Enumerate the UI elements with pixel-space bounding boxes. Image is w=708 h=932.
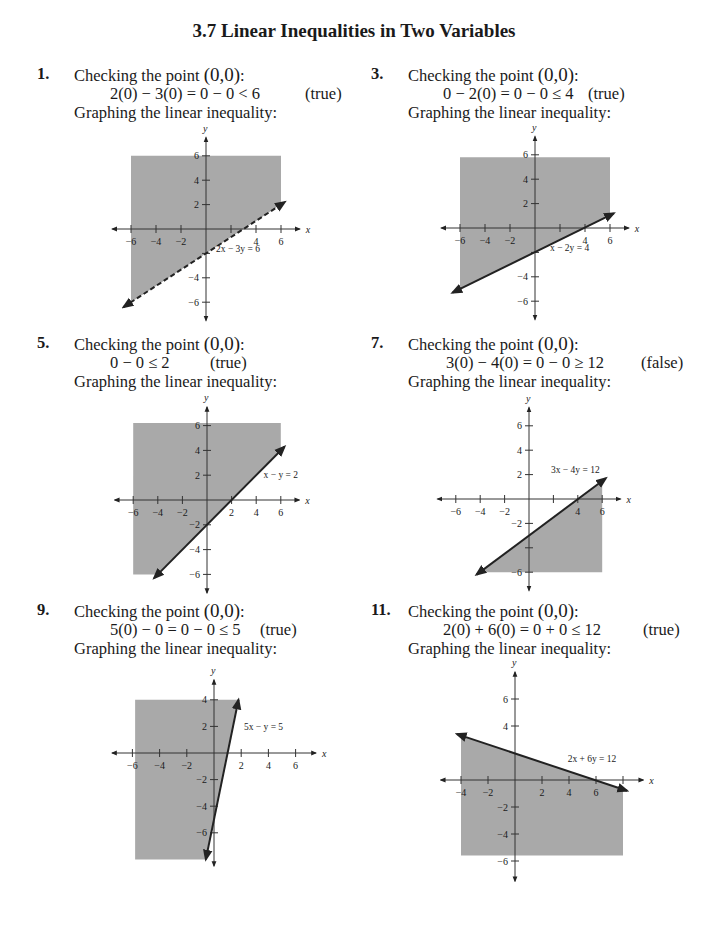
x-tick-label: −4 xyxy=(456,787,467,798)
x-tick-label: 4 xyxy=(567,787,572,798)
y-tick-label: 4 xyxy=(503,721,508,732)
y-tick-label: −6 xyxy=(497,856,508,867)
x-tick-label: −2 xyxy=(483,787,494,798)
line-equation-label: 2x + 6y = 12 xyxy=(568,754,617,764)
y-axis-label: y xyxy=(511,657,517,668)
y-tick-label: 6 xyxy=(503,694,508,705)
y-tick-label: −4 xyxy=(497,829,508,840)
x-tick-label: 6 xyxy=(594,787,599,798)
graph-problem-11: xy−4−2246−6−4−2462x + 6y = 12 xyxy=(0,0,708,932)
x-axis-label: x xyxy=(648,775,654,786)
x-tick-label: 2 xyxy=(540,787,545,798)
y-tick-label: −2 xyxy=(497,802,508,813)
